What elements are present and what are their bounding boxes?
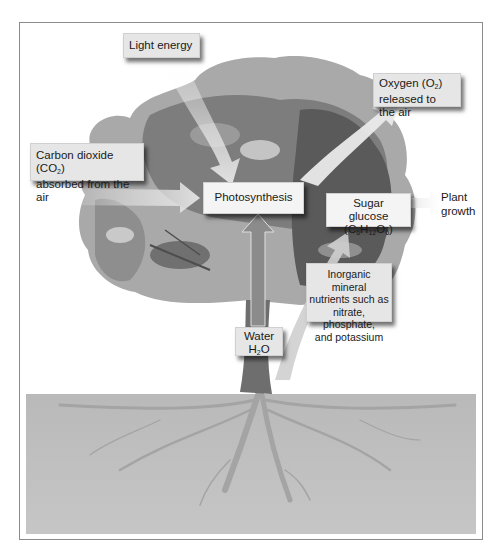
photosynthesis-label: Photosynthesis [203, 182, 304, 214]
oxygen-label: Oxygen (O2) released to the air [373, 73, 461, 107]
sugar-glucose-label: Sugar glucose (C6H12O6) [326, 193, 411, 227]
co2-line-1: Carbon dioxide (CO2) [36, 149, 138, 178]
water-formula: H2O [238, 343, 280, 359]
plant-growth-text: Plant growth [441, 190, 476, 218]
oxygen-line-1: Oxygen (O2) [379, 77, 455, 93]
inorganic-minerals-label: Inorganic mineral nutrients such as nitr… [306, 263, 392, 322]
co2-line-2: absorbed from the air [36, 178, 138, 204]
light-energy-label: Light energy [123, 33, 200, 58]
water-label: Water H2O [235, 327, 283, 356]
roots [60, 395, 455, 505]
oxygen-line-2: released to the air [379, 93, 455, 119]
sugar-formula: (C6H12O6) [332, 223, 405, 239]
sugar-line-1: Sugar glucose [332, 197, 405, 223]
carbon-dioxide-label: Carbon dioxide (CO2) absorbed from the a… [30, 143, 144, 181]
